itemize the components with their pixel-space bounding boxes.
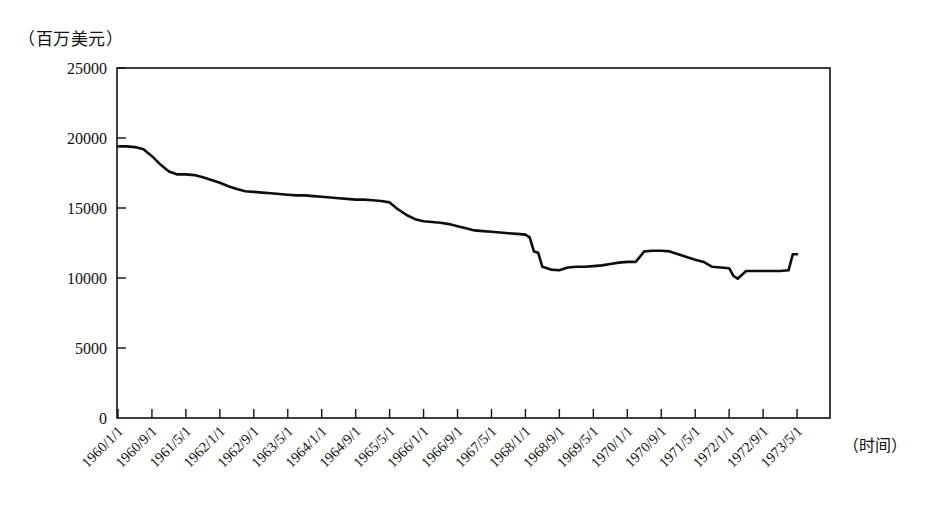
y-axis-tick-label: 20000 [67, 130, 107, 147]
y-axis-tick-label: 15000 [67, 200, 107, 217]
y-axis-tick-label: 10000 [67, 270, 107, 287]
chart-figure: （百万美元） （时间） 0500010000150002000025000 19… [0, 0, 928, 517]
y-axis-unit-label: （百万美元） [18, 25, 123, 50]
plot-area-frame [117, 68, 830, 418]
line-chart-plot: 0500010000150002000025000 1960/1/11960/9… [0, 0, 928, 517]
y-axis-tick-label: 0 [99, 410, 107, 427]
y-axis-tick-label: 25000 [67, 60, 107, 77]
data-series-line [118, 146, 797, 278]
y-axis-tick-label: 5000 [75, 340, 107, 357]
x-axis-label: （时间） [843, 432, 907, 456]
